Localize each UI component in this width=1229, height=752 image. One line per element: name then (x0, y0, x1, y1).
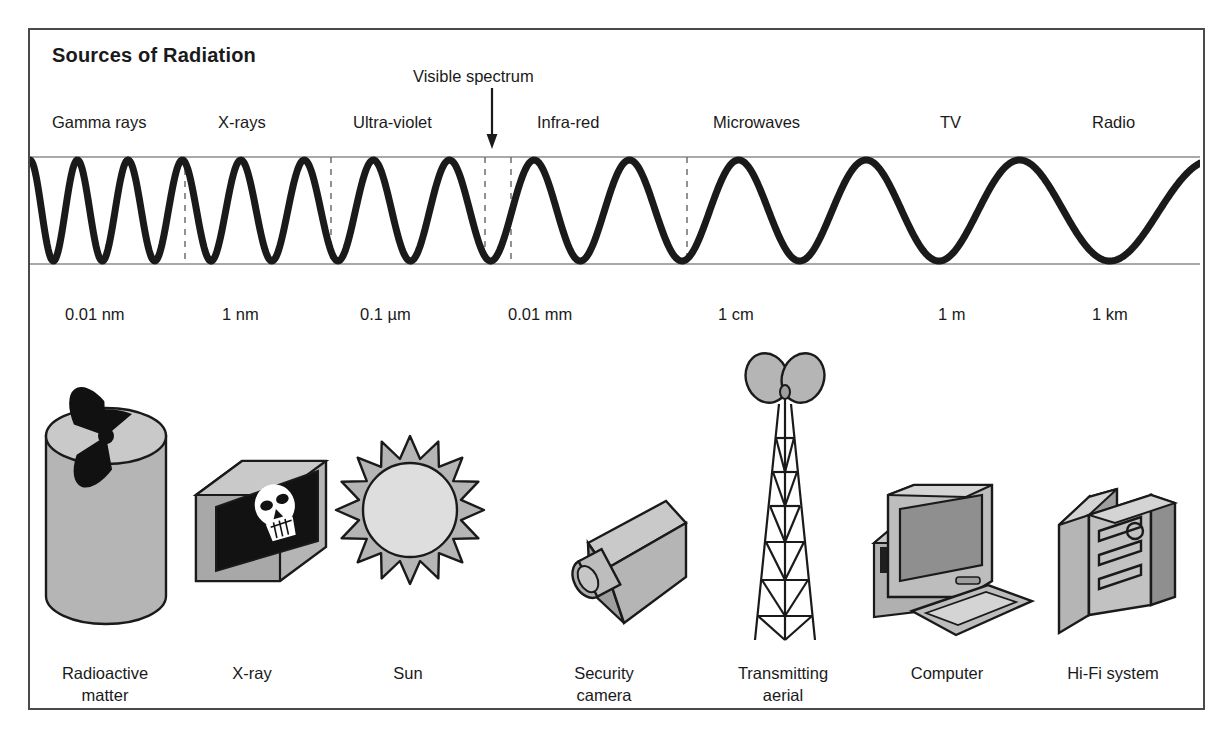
figure-title: Sources of Radiation (52, 44, 256, 67)
scale-label-1: 1 nm (222, 305, 259, 324)
source-caption-security-camera: Security camera (534, 662, 674, 706)
scale-label-0: 0.01 nm (65, 305, 125, 324)
radioactive-drum-icon (40, 400, 172, 640)
band-label-tv: TV (940, 113, 961, 132)
wave-curve (30, 160, 1200, 261)
xray-lightbox-icon (190, 455, 330, 595)
spectrum-waveform (30, 148, 1200, 273)
visible-spectrum-label: Visible spectrum (413, 67, 534, 86)
source-caption-sun: Sun (338, 662, 478, 684)
transmitting-aerial-icon (745, 352, 825, 644)
sun-icon (335, 420, 485, 600)
scale-label-5: 1 m (938, 305, 966, 324)
scale-label-3: 0.01 mm (508, 305, 572, 324)
source-caption-transmitting-aerial: Transmitting aerial (708, 662, 858, 706)
band-label-ultra-violet: Ultra-violet (353, 113, 432, 132)
band-label-x-rays: X-rays (218, 113, 266, 132)
source-caption-computer: Computer (877, 662, 1017, 684)
security-camera-icon (548, 495, 688, 640)
source-caption-radioactive-matter: Radioactive matter (30, 662, 180, 706)
band-label-microwaves: Microwaves (713, 113, 800, 132)
spectrum-figure: Sources of Radiation Visible spectrum Ga… (0, 0, 1229, 752)
visible-spectrum-arrow-icon (482, 88, 502, 150)
band-label-infra-red: Infra-red (537, 113, 599, 132)
scale-label-6: 1 km (1092, 305, 1128, 324)
band-label-gamma-rays: Gamma rays (52, 113, 146, 132)
scale-label-2: 0.1 µm (360, 305, 411, 324)
band-label-radio: Radio (1092, 113, 1135, 132)
band-dividers (185, 157, 687, 264)
scale-label-4: 1 cm (718, 305, 754, 324)
hifi-system-icon (1055, 485, 1180, 640)
source-caption-x-ray: X-ray (182, 662, 322, 684)
computer-icon (870, 485, 1035, 640)
source-caption-hifi-system: Hi-Fi system (1038, 662, 1188, 684)
